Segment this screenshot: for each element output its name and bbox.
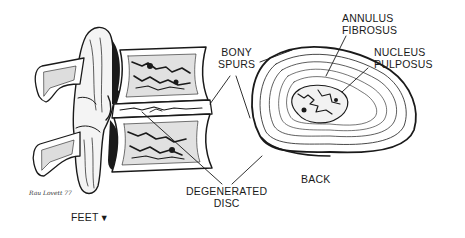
annulus-fibrosus-label: ANNULUS FIBROSUS xyxy=(342,13,397,36)
bony-spurs-line2: SPURS xyxy=(218,59,255,71)
facet-column xyxy=(73,27,114,193)
degenerated-line1: DEGENERATED xyxy=(186,186,267,198)
upper-vertebral-body xyxy=(116,47,208,104)
nucleus-line1: NUCLEUS xyxy=(374,47,433,59)
feet-label: FEET▼ xyxy=(71,212,109,225)
nucleus-line2: PULPOSUS xyxy=(374,59,433,71)
bony-spurs-line1: BONY xyxy=(218,47,255,59)
bony-spurs-label: BONY SPURS xyxy=(218,47,255,70)
annulus-line2: FIBROSUS xyxy=(342,25,397,37)
back-label: BACK xyxy=(301,174,330,186)
degenerated-disc-label: DEGENERATED DISC xyxy=(186,186,267,209)
degenerated-line2: DISC xyxy=(186,198,267,210)
lower-vertebral-body xyxy=(112,114,212,172)
nucleus-pulposus-label: NUCLEUS PULPOSUS xyxy=(374,47,433,70)
down-arrow-icon: ▼ xyxy=(100,213,109,223)
lower-transverse-process xyxy=(33,132,80,176)
annulus-line1: ANNULUS xyxy=(342,13,397,25)
artist-signature: Rau Lovett 77 xyxy=(29,189,72,196)
feet-text: FEET xyxy=(71,211,99,223)
